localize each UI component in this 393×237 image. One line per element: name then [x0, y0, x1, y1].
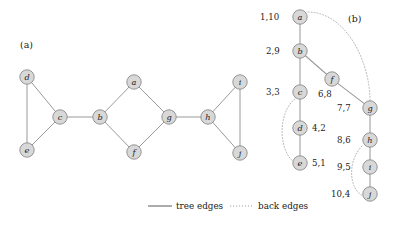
panel-b-node-c: c [293, 85, 307, 99]
panel-b-time-label-f: 6,8 [318, 89, 332, 99]
panel-b-time-label-b: 2,9 [266, 46, 280, 56]
panel-b-node-label-d: d [297, 123, 302, 133]
panel-a-node-d: d [20, 70, 34, 84]
panel-a-node-label-c: c [58, 112, 63, 122]
panel-b-node-h: h [363, 133, 377, 147]
panel-a-node-e: e [20, 143, 34, 157]
panel-a-node-label-g: g [166, 112, 171, 122]
panel-b-node-j: j [363, 187, 377, 201]
panel-b-time-label-c: 3,3 [266, 87, 280, 97]
panel-b-tree-edge-group [300, 24, 370, 187]
panel-a-edge-e-c [32, 122, 55, 145]
panel-a-edge-b-f [105, 122, 129, 147]
panel-b-node-a: a [293, 10, 307, 24]
panel-b-caption: (b) [348, 13, 361, 24]
panel-a-node-label-h: h [205, 112, 210, 122]
dfs-figure: decbafghij abcdefghij 1,102,93,34,25,16,… [0, 0, 393, 237]
panel-b-node-label-a: a [298, 12, 303, 22]
panel-b-node-i: i [363, 160, 377, 174]
panel-a-node-label-i: i [239, 77, 242, 87]
panel-a-node-a: a [127, 75, 141, 89]
panel-a-node-label-d: d [24, 72, 29, 82]
legend-back-edge-label: back edges [258, 201, 309, 211]
panel-b-node-label-h: h [367, 135, 372, 145]
panel-b-tree-edge-b-f [305, 56, 326, 75]
panel-b-node-b: b [293, 44, 307, 58]
panel-a-edge-a-g [139, 87, 164, 112]
panel-b-node-label-c: c [298, 87, 303, 97]
panel-b-node-g: g [363, 101, 377, 115]
panel-a-node-j: j [233, 146, 247, 160]
panel-a-node-b: b [93, 110, 107, 124]
panel-b-back-edge-a-g [308, 12, 370, 101]
panel-b-node-d: d [293, 121, 307, 135]
panel-b-time-label-d: 4,2 [312, 123, 326, 133]
panel-b-time-label-h: 8,6 [337, 135, 351, 145]
panel-b-time-label-e: 5,1 [312, 158, 326, 168]
panel-b-time-label-group: 1,102,93,34,25,16,87,78,69,510,4 [260, 12, 351, 199]
panel-b-node-group: abcdefghij [293, 10, 377, 201]
panel-b-time-label-g: 7,7 [337, 103, 351, 113]
panel-b-node-label-e: e [298, 158, 303, 168]
panel-b-tree-edge-f-g [338, 83, 365, 103]
panel-b-node-e: e [293, 156, 307, 170]
panel-b-node-label-g: g [367, 103, 372, 113]
panel-a-node-g: g [162, 110, 176, 124]
panel-a-edge-b-a [105, 87, 129, 112]
figure-canvas: decbafghij abcdefghij 1,102,93,34,25,16,… [0, 0, 393, 237]
panel-b-node-label-i: i [369, 162, 372, 172]
legend: tree edgesback edges [148, 201, 309, 211]
panel-a-caption: (a) [20, 39, 33, 50]
panel-a-edge-h-i [213, 87, 235, 111]
panel-a-node-i: i [233, 75, 247, 89]
panel-b-time-label-a: 1,10 [260, 12, 279, 22]
panel-caption-group: (a)(b) [20, 13, 361, 50]
panel-a-node-f: f [127, 145, 141, 159]
panel-a-edge-f-g [139, 122, 164, 147]
panel-a-edge-h-j [213, 122, 235, 147]
panel-a-node-label-b: b [97, 112, 102, 122]
panel-a-node-h: h [201, 110, 215, 124]
panel-b-node-label-b: b [297, 46, 302, 56]
panel-b-node-f: f [325, 72, 339, 86]
panel-a-node-label-a: a [132, 77, 137, 87]
panel-a-node-label-e: e [25, 145, 30, 155]
panel-a-node-group: decbafghij [20, 70, 247, 160]
panel-a-node-c: c [53, 110, 67, 124]
panel-b-time-label-j: 10,4 [331, 189, 351, 199]
panel-b-time-label-i: 9,5 [337, 162, 351, 172]
panel-b-back-edge-h-j [352, 146, 363, 196]
panel-a-edge-d-c [32, 83, 56, 112]
legend-tree-edge-label: tree edges [176, 201, 224, 211]
